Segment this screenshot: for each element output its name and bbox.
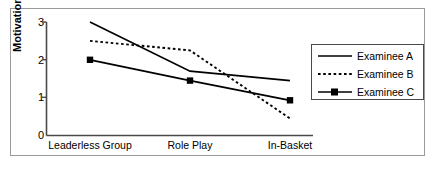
series-marker-point (187, 77, 193, 83)
legend-box: Examinee A Examinee B Examinee C (311, 44, 424, 100)
legend-label-examinee-b: Examinee B (357, 68, 414, 80)
series-marker-point (287, 97, 293, 103)
legend-item-examinee-b[interactable]: Examinee B (312, 65, 423, 83)
legend-item-examinee-a[interactable]: Examinee A (312, 47, 423, 65)
legend-label-examinee-c: Examinee C (357, 86, 414, 98)
chart-figure: Motivation 3 2 1 0 Leaderless Group Role… (0, 0, 437, 170)
series-markers-examinee-c (87, 57, 293, 104)
legend-label-examinee-a: Examinee A (357, 50, 413, 62)
series-marker-point (87, 57, 93, 63)
legend-swatch-solid-icon (317, 49, 353, 63)
legend-item-examinee-c[interactable]: Examinee C (312, 83, 423, 101)
legend-swatch-dotted-icon (317, 67, 353, 81)
legend-swatch-square-marker-icon (317, 85, 353, 99)
